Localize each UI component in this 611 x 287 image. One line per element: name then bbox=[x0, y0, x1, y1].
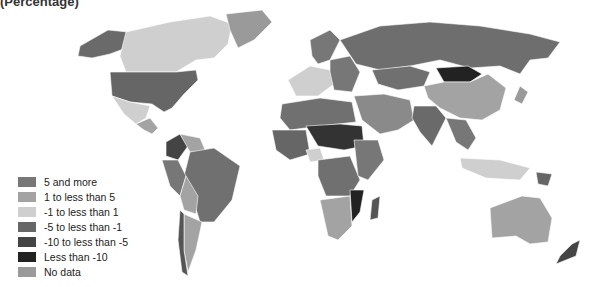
legend-swatch bbox=[18, 252, 36, 262]
region-europe-west[interactable] bbox=[288, 66, 334, 96]
legend-item: -10 to less than -5 bbox=[18, 234, 128, 249]
region-southern-africa[interactable] bbox=[320, 196, 352, 240]
region-east-africa[interactable] bbox=[354, 140, 384, 180]
region-greenland[interactable] bbox=[226, 10, 272, 48]
legend-label: No data bbox=[44, 266, 81, 278]
legend-item: Less than -10 bbox=[18, 249, 128, 264]
region-japan[interactable] bbox=[514, 86, 528, 104]
legend-item: 1 to less than 5 bbox=[18, 189, 128, 204]
legend-swatch bbox=[18, 192, 36, 202]
map-legend: 5 and more 1 to less than 5 -1 to less t… bbox=[18, 174, 128, 279]
region-indonesia[interactable] bbox=[460, 158, 530, 180]
legend-label: -1 to less than 1 bbox=[44, 206, 119, 218]
legend-item: No data bbox=[18, 264, 128, 279]
region-new-zealand[interactable] bbox=[556, 240, 580, 264]
legend-item: -1 to less than 1 bbox=[18, 204, 128, 219]
legend-label: 1 to less than 5 bbox=[44, 191, 115, 203]
region-se-asia[interactable] bbox=[446, 118, 476, 150]
region-madagascar[interactable] bbox=[370, 196, 380, 220]
region-mozambique[interactable] bbox=[350, 190, 364, 222]
legend-label: -10 to less than -5 bbox=[44, 236, 128, 248]
region-kazakhstan[interactable] bbox=[372, 66, 430, 90]
legend-swatch bbox=[18, 237, 36, 247]
region-middle-east[interactable] bbox=[354, 94, 414, 134]
region-russia[interactable] bbox=[340, 22, 560, 74]
legend-item: 5 and more bbox=[18, 174, 128, 189]
legend-swatch bbox=[18, 207, 36, 217]
legend-label: Less than -10 bbox=[44, 251, 108, 263]
legend-label: 5 and more bbox=[44, 176, 97, 188]
region-india[interactable] bbox=[412, 106, 446, 146]
legend-swatch bbox=[18, 222, 36, 232]
legend-swatch bbox=[18, 267, 36, 277]
region-canada[interactable] bbox=[120, 16, 232, 72]
region-australia[interactable] bbox=[490, 196, 552, 244]
legend-swatch bbox=[18, 177, 36, 187]
legend-item: -5 to less than -1 bbox=[18, 219, 128, 234]
region-png[interactable] bbox=[536, 172, 552, 186]
region-argentina[interactable] bbox=[184, 214, 202, 272]
region-west-africa[interactable] bbox=[272, 130, 310, 160]
legend-label: -5 to less than -1 bbox=[44, 221, 122, 233]
